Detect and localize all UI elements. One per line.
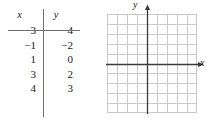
- cell-y: 2: [41, 67, 82, 81]
- table-row: 4 3: [6, 81, 82, 95]
- table-row: −1 −2: [6, 38, 82, 52]
- cell-x: 4: [6, 81, 41, 95]
- cell-x: 1: [6, 52, 41, 66]
- cell-y: 3: [41, 81, 82, 95]
- cell-x: 3: [6, 67, 41, 81]
- cell-x: −1: [6, 38, 41, 52]
- column-header-x: x: [6, 8, 41, 23]
- axes-layer: [107, 14, 197, 113]
- table-row: 1 0: [6, 52, 82, 66]
- table-header-rule: [8, 30, 80, 31]
- coordinate-grid: y x: [107, 14, 197, 113]
- value-table: x y −3 −4 −1 −2 1 0 3 2: [6, 8, 82, 120]
- cell-y: 0: [41, 52, 82, 66]
- table-column-divider: [43, 9, 44, 117]
- xy-table: x y −3 −4 −1 −2 1 0 3 2: [6, 8, 82, 95]
- math-figure: x y −3 −4 −1 −2 1 0 3 2: [0, 0, 210, 128]
- column-header-y: y: [41, 8, 82, 23]
- y-axis-label: y: [133, 0, 137, 10]
- table-header-row: x y: [6, 8, 82, 23]
- x-axis-label: x: [200, 57, 204, 68]
- cell-y: −2: [41, 38, 82, 52]
- table-row: 3 2: [6, 67, 82, 81]
- y-axis-arrowhead: [145, 5, 150, 11]
